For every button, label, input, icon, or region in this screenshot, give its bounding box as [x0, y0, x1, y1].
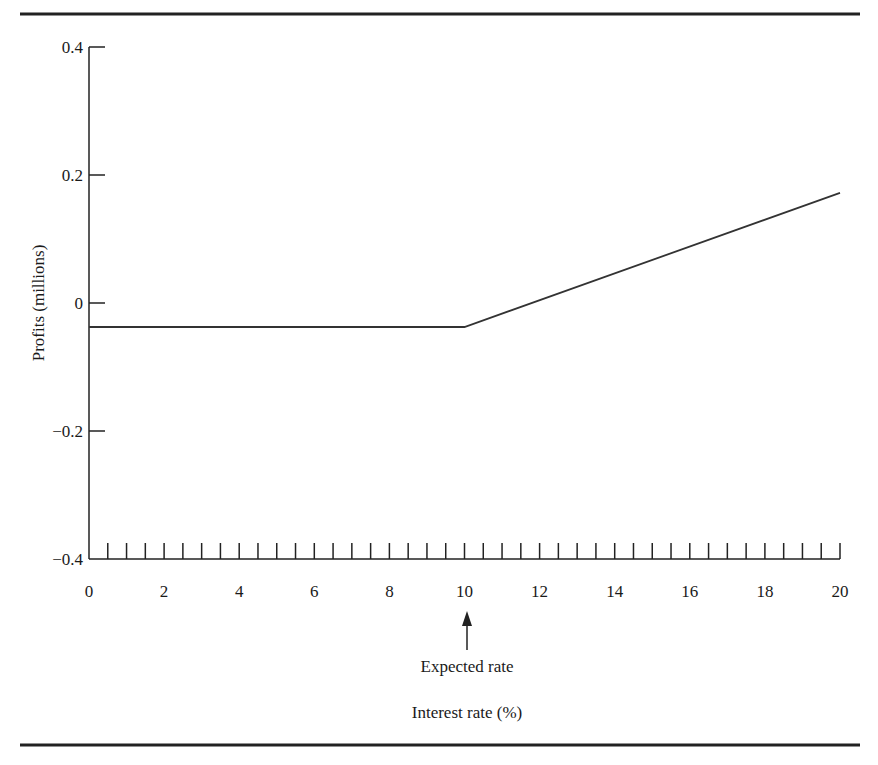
line-chart: 0.40.20−0.2−0.4 02468101214161820 Profit…	[0, 0, 878, 765]
annotation-label: Expected rate	[421, 657, 514, 676]
x-tick-label: 16	[681, 582, 698, 601]
x-tick-label: 0	[85, 582, 94, 601]
y-tick-label: 0.4	[62, 38, 84, 57]
x-tick-label: 10	[456, 582, 473, 601]
x-tick-label: 20	[832, 582, 849, 601]
x-axis-label: Interest rate (%)	[412, 703, 522, 722]
data-series	[89, 193, 840, 327]
x-axis: 02468101214161820	[85, 543, 849, 601]
x-tick-label: 12	[531, 582, 548, 601]
y-axis: 0.40.20−0.2−0.4	[52, 38, 105, 569]
y-axis-label: Profits (millions)	[29, 245, 48, 362]
series-line	[89, 193, 840, 327]
x-tick-label: 18	[756, 582, 773, 601]
y-tick-label: 0.2	[62, 166, 83, 185]
expected-rate-annotation: Expected rate	[421, 611, 514, 676]
x-tick-label: 14	[606, 582, 624, 601]
x-tick-label: 6	[310, 582, 319, 601]
y-tick-label: −0.4	[52, 550, 83, 569]
y-tick-label: −0.2	[52, 422, 83, 441]
x-tick-label: 2	[160, 582, 169, 601]
x-tick-label: 4	[235, 582, 244, 601]
x-tick-label: 8	[385, 582, 394, 601]
arrow-up-icon	[462, 611, 472, 626]
y-tick-label: 0	[75, 294, 84, 313]
